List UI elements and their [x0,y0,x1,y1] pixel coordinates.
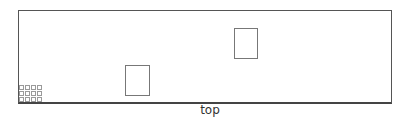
top-view-frame [18,10,392,104]
grid-cell [25,85,30,90]
grid-cell [37,91,42,96]
grid-cell [31,91,36,96]
rect-lower-left [125,65,150,96]
corner-grid [19,85,41,101]
rect-upper-right [234,28,258,59]
grid-cell [31,85,36,90]
grid-cell [31,97,36,102]
grid-cell [25,97,30,102]
grid-cell [19,85,24,90]
grid-cell [19,97,24,102]
grid-cell [25,91,30,96]
grid-cell [37,97,42,102]
grid-cell [37,85,42,90]
grid-cell [19,91,24,96]
view-label: top [0,103,420,117]
